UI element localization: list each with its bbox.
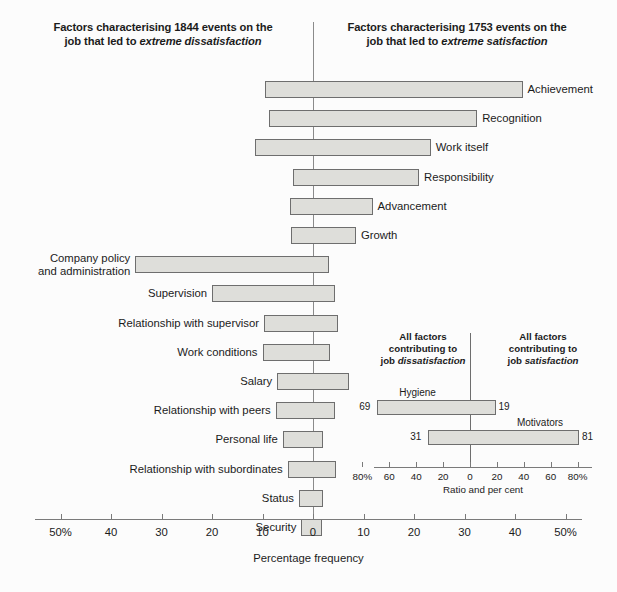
x-tick [111, 514, 112, 519]
bar-advancement [290, 198, 373, 215]
inset-chart: All factors contributing to job dissatis… [370, 331, 596, 496]
inset-tick-label: 80% [568, 471, 588, 482]
bar-label: Relationship with supervisor [118, 315, 259, 332]
x-tick [212, 514, 213, 519]
bar-recognition [269, 110, 478, 127]
header-satisfaction-line2-prefix: job that led to [366, 35, 441, 47]
inset-header-dissatisfaction-line1: All factors [399, 331, 446, 342]
inset-header-dissatisfaction-line2: contributing to [389, 343, 457, 354]
inset-header-satisfaction: All factors contributing to job satisfac… [490, 331, 596, 367]
inset-tick [524, 462, 525, 467]
header-dissatisfaction: Factors characterising 1844 events on th… [28, 20, 298, 48]
x-tick [313, 514, 314, 519]
x-tick [364, 514, 365, 519]
bar-work-itself [255, 139, 431, 156]
inset-tick-label: 20 [491, 471, 502, 482]
bar-label: Company policyand administration [0, 252, 130, 278]
inset-header-satisfaction-line1: All factors [519, 331, 566, 342]
inset-bar-label: Motivators [517, 417, 563, 428]
inset-tick-label: 40 [518, 471, 529, 482]
inset-tick-label: 80% [353, 471, 373, 482]
inset-axis-line [374, 467, 592, 468]
chart-canvas: Factors characterising 1844 events on th… [0, 0, 617, 592]
inset-tick [578, 462, 579, 467]
x-tick-label: 20 [206, 526, 219, 538]
inset-header-satisfaction-emphasis: satisfaction [525, 355, 579, 366]
inset-header-dissatisfaction: All factors contributing to job dissatis… [370, 331, 476, 367]
bar-label: Advancement [378, 198, 447, 215]
bar-work-conditions [263, 344, 331, 361]
bar-status [299, 490, 323, 507]
inset-tick-label: 40 [411, 471, 422, 482]
bar-salary [277, 373, 349, 390]
bar-label: Work itself [436, 139, 489, 156]
bar-growth [291, 227, 356, 244]
x-tick [162, 514, 163, 519]
bar-label: Achievement [528, 81, 593, 98]
header-satisfaction: Factors characterising 1753 events on th… [322, 20, 592, 48]
bar-label: Status [262, 490, 294, 507]
x-tick-label: 0 [310, 526, 316, 538]
header-dissatisfaction-line1: Factors characterising 1844 events on th… [53, 21, 272, 33]
x-tick-label: 40 [509, 526, 522, 538]
x-tick-label: 40 [105, 526, 118, 538]
bar-row: Security [0, 519, 617, 536]
bar-row: Relationship with supervisor [0, 315, 617, 332]
x-tick [263, 514, 264, 519]
x-tick-label: 30 [458, 526, 471, 538]
inset-tick-label: 0 [467, 471, 472, 482]
bar-label: Salary [240, 373, 272, 390]
inset-value-right: 19 [499, 401, 510, 412]
inset-header-dissatisfaction-emphasis: dissatisfaction [398, 355, 466, 366]
header-satisfaction-emphasis: extreme satisfaction [441, 35, 547, 47]
bar-label: Relationship with peers [154, 402, 271, 419]
inset-header-dissatisfaction-line3-prefix: job [380, 355, 397, 366]
bar-row: Work itself [0, 139, 617, 156]
x-tick-label: 10 [357, 526, 370, 538]
x-tick [61, 514, 62, 519]
inset-tick [497, 462, 498, 467]
bar-row: Advancement [0, 198, 617, 215]
bar-personal-life [283, 431, 323, 448]
bar-row: Company policyand administration [0, 256, 617, 273]
inset-header-satisfaction-line3-prefix: job [507, 355, 524, 366]
x-tick [465, 514, 466, 519]
x-tick-label: 20 [408, 526, 421, 538]
bar-label: Supervision [148, 285, 207, 302]
inset-bar-motivators [428, 430, 579, 445]
bar-label: Growth [361, 227, 397, 244]
header-dissatisfaction-line2-prefix: job that led to [65, 35, 140, 47]
bar-responsibility [293, 169, 419, 186]
inset-value-left: 69 [359, 401, 370, 412]
inset-tick [416, 462, 417, 467]
bar-row: Achievement [0, 81, 617, 98]
inset-tick [443, 462, 444, 467]
bar-label: Recognition [482, 110, 542, 127]
inset-value-left: 31 [410, 431, 421, 442]
x-tick [566, 514, 567, 519]
bar-label: Relationship with subordinates [130, 461, 283, 478]
bar-label-line1: Company policy [50, 252, 130, 264]
x-axis-line [35, 519, 582, 520]
inset-bar-hygiene [377, 400, 495, 415]
inset-tick-label: 60 [384, 471, 395, 482]
x-tick-label: 50% [554, 526, 577, 538]
header-satisfaction-line1: Factors characterising 1753 events on th… [347, 21, 566, 33]
x-tick [414, 514, 415, 519]
inset-tick [551, 462, 552, 467]
inset-tick-label: 20 [438, 471, 449, 482]
bar-relationship-with-subordinates [288, 461, 336, 478]
bar-row: Recognition [0, 110, 617, 127]
bar-relationship-with-supervisor [264, 315, 338, 332]
inset-bar-label: Hygiene [399, 387, 436, 398]
bar-row: Responsibility [0, 169, 617, 186]
header-dissatisfaction-emphasis: extreme dissatisfaction [139, 35, 261, 47]
bar-label: Responsibility [424, 169, 494, 186]
bar-row: Growth [0, 227, 617, 244]
inset-header-satisfaction-line2: contributing to [509, 343, 577, 354]
x-tick-label: 50% [49, 526, 72, 538]
bar-label: Personal life [216, 431, 278, 448]
bar-label-line2: and administration [38, 265, 130, 277]
inset-tick [470, 462, 471, 467]
inset-axis-title: Ratio and per cent [370, 484, 596, 495]
